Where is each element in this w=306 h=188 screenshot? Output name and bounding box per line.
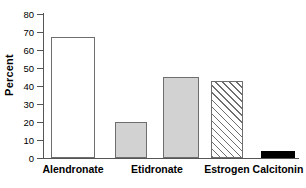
y-tick-label-20: 20 (0, 117, 34, 128)
bar-alendronate (51, 37, 95, 158)
x-axis-line (43, 158, 299, 159)
y-tick-label-70: 70 (0, 27, 34, 38)
bar-etidronate-1 (115, 122, 147, 158)
y-tick-0 (37, 158, 43, 159)
x-axis-label-estrogen: Estrogen (204, 163, 250, 175)
bar-chart: Percent 01020304050607080 AlendronateEti… (0, 0, 306, 188)
y-tick-label-50: 50 (0, 63, 34, 74)
y-tick-label-40: 40 (0, 81, 34, 92)
y-axis-title: Percent (0, 0, 19, 150)
y-tick-label-60: 60 (0, 45, 34, 56)
y-tick-label-30: 30 (0, 99, 34, 110)
x-axis-label-alendronate: Alendronate (42, 163, 103, 175)
bar-etidronate-2 (163, 77, 199, 158)
y-tick-label-10: 10 (0, 135, 34, 146)
bar-calcitonin (261, 151, 295, 158)
y-tick-label-0: 0 (0, 153, 34, 164)
bar-estrogen (211, 81, 243, 158)
x-axis-label-calcitonin: Calcitonin (253, 163, 304, 175)
x-axis-label-etidronate: Etidronate (131, 163, 183, 175)
y-tick-label-80: 80 (0, 9, 34, 20)
plot-area (43, 14, 298, 158)
